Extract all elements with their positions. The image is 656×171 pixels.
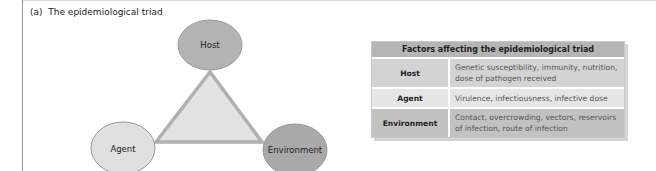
factor-description: Genetic susceptibility, immunity, nutrit… [449, 58, 624, 88]
table-header: Factors affecting the epidemiological tr… [372, 42, 624, 58]
triad-triangle [156, 72, 262, 142]
node-host-label: Host [200, 40, 220, 50]
table-row-host: Host Genetic susceptibility, immunity, n… [372, 58, 624, 88]
node-agent-label: Agent [110, 144, 136, 154]
triad-diagram: Host Agent Environment [0, 0, 370, 171]
node-agent: Agent [91, 122, 155, 171]
factor-label: Host [372, 58, 449, 88]
node-host: Host [178, 20, 242, 70]
table-row-environment: Environment Contact, overcrowding, vecto… [372, 108, 624, 137]
table-row-agent: Agent Virulence, infectiousness, infecti… [372, 88, 624, 108]
factor-description: Contact, overcrowding, vectors, reservoi… [449, 108, 624, 137]
node-environment-label: Environment [268, 145, 323, 155]
factors-table: Factors affecting the epidemiological tr… [371, 41, 625, 138]
factor-label: Environment [372, 108, 449, 137]
factor-description: Virulence, infectiousness, infective dos… [449, 88, 624, 108]
node-environment: Environment [263, 124, 327, 171]
factor-label: Agent [372, 88, 449, 108]
